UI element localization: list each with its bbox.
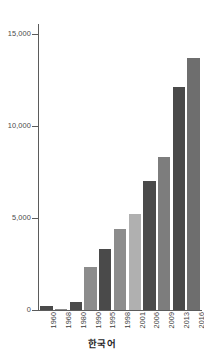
bar-1968 [55, 309, 67, 310]
bar-2016 [187, 58, 199, 310]
bar-2001 [129, 214, 141, 310]
x-label-slot-2006: 2006 [142, 311, 157, 341]
x-label-slot-1980: 1980 [68, 311, 83, 341]
x-label-slot-2016: 2016 [186, 311, 201, 341]
y-tick-label-5000: 5,000 [0, 214, 31, 221]
x-label-slot-1995: 1995 [98, 311, 113, 341]
x-label-slot-2013: 2013 [172, 311, 187, 341]
x-tick-label-2016: 2016 [197, 312, 204, 328]
x-label-slot-1998: 1998 [113, 311, 128, 341]
bar-1990 [84, 267, 96, 310]
x-label-slot-1990: 1990 [83, 311, 98, 341]
y-tick-10000 [32, 126, 39, 127]
bar-2006 [143, 181, 155, 310]
x-label-slot-2001: 2001 [127, 311, 142, 341]
bar-1960 [40, 306, 52, 310]
x-label-slot-1968: 1968 [54, 311, 69, 341]
y-tick-label-10000: 10,000 [0, 122, 31, 129]
bar-2009 [158, 157, 170, 310]
chart-caption: 한국어 [0, 338, 204, 349]
bar-1998 [114, 229, 126, 310]
bar-2013 [173, 87, 185, 310]
bar-chart: 15,000 10,000 5,000 0 196019681980199019… [0, 0, 204, 353]
y-tick-label-0: 0 [0, 306, 31, 313]
bar-1995 [99, 249, 111, 310]
x-label-slot-1960: 1960 [39, 311, 54, 341]
bar-1980 [70, 302, 82, 310]
plot-area [39, 24, 201, 310]
y-tick-5000 [32, 218, 39, 219]
x-axis-labels: 1960196819801990199519982001200620092013… [39, 311, 201, 341]
y-tick-15000 [32, 34, 39, 35]
x-label-slot-2009: 2009 [157, 311, 172, 341]
y-tick-label-15000: 15,000 [0, 30, 31, 37]
